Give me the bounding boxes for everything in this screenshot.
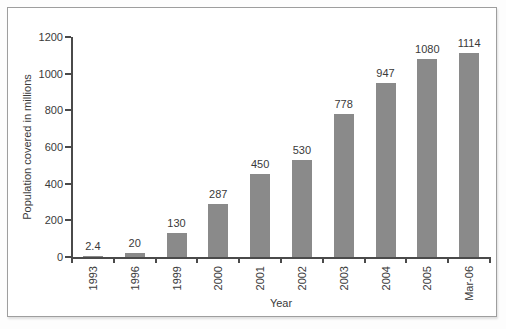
y-tick-label: 400 — [23, 178, 63, 190]
x-tick-label: 2001 — [252, 266, 268, 310]
x-axis-title: Year — [231, 296, 331, 310]
y-tick-mark — [65, 109, 71, 111]
y-tick-label: 200 — [23, 214, 63, 226]
bar — [417, 59, 437, 257]
bar — [459, 53, 479, 257]
x-tick-label: 1999 — [169, 266, 185, 310]
bar — [167, 233, 187, 257]
y-tick-label: 600 — [23, 141, 63, 153]
x-tick-label: 2002 — [294, 266, 310, 310]
y-tick-mark — [65, 73, 71, 75]
x-tick-label: 2005 — [419, 266, 435, 310]
y-tick-mark — [65, 146, 71, 148]
x-tick-mark — [155, 258, 157, 263]
y-tick-label: 1200 — [23, 31, 63, 43]
bar-value-label: 1114 — [447, 37, 491, 50]
y-tick-label: 1000 — [23, 68, 63, 80]
x-tick-label: 2003 — [336, 266, 352, 310]
bar-value-label: 530 — [280, 144, 324, 157]
x-tick-mark — [489, 258, 491, 263]
bar — [334, 114, 354, 257]
bar-value-label: 778 — [322, 98, 366, 111]
y-tick-mark — [65, 219, 71, 221]
bar-value-label: 947 — [364, 67, 408, 80]
bar — [376, 83, 396, 257]
y-tick-label: 0 — [23, 251, 63, 263]
y-tick-label: 800 — [23, 104, 63, 116]
bar — [250, 174, 270, 257]
x-tick-label: Mar-06 — [461, 266, 477, 310]
x-tick-mark — [196, 258, 198, 263]
bar-value-label: 20 — [113, 237, 157, 250]
bar-value-label: 1080 — [405, 43, 449, 56]
bar-value-label: 450 — [238, 158, 282, 171]
x-tick-mark — [280, 258, 282, 263]
x-tick-label: 1993 — [85, 266, 101, 310]
x-tick-mark — [322, 258, 324, 263]
bar — [208, 204, 228, 257]
y-axis-line — [71, 37, 73, 258]
x-tick-mark — [71, 258, 73, 263]
x-tick-label: 2004 — [378, 266, 394, 310]
bar — [83, 256, 103, 257]
x-tick-mark — [447, 258, 449, 263]
bar — [125, 253, 145, 257]
x-tick-label: 2000 — [210, 266, 226, 310]
x-tick-mark — [238, 258, 240, 263]
bar-value-label: 2.4 — [71, 240, 115, 253]
bar-value-label: 130 — [155, 217, 199, 230]
x-tick-mark — [113, 258, 115, 263]
bar-value-label: 287 — [196, 188, 240, 201]
y-tick-mark — [65, 183, 71, 185]
x-tick-label: 1996 — [127, 266, 143, 310]
x-tick-mark — [405, 258, 407, 263]
x-tick-mark — [364, 258, 366, 263]
y-tick-mark — [65, 36, 71, 38]
bar — [292, 160, 312, 257]
chart-frame: Population covered in millions Year 0200… — [7, 7, 497, 317]
